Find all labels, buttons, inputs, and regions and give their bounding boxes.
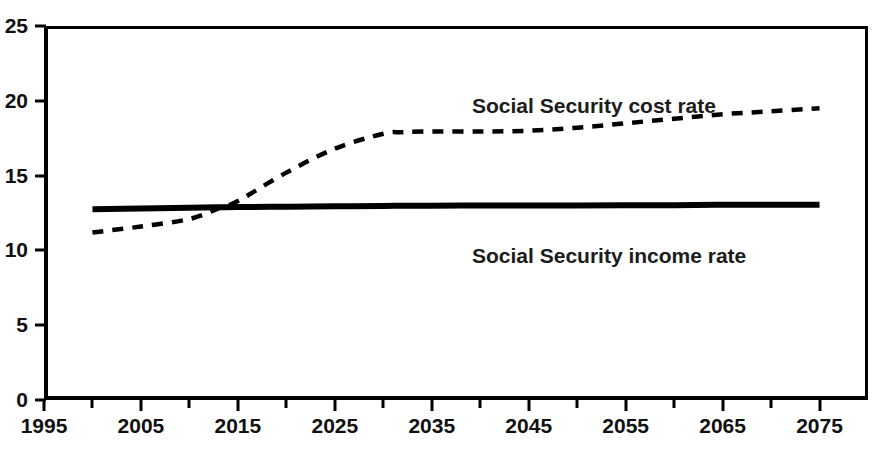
x-tick-label: 2005 bbox=[118, 414, 165, 438]
x-axis-labels: 199520052015202520352045205520652075 bbox=[44, 414, 868, 444]
y-tick-label: 25 bbox=[0, 14, 28, 38]
x-tick-mark bbox=[43, 400, 46, 411]
x-tick-mark-minor bbox=[576, 400, 579, 408]
x-tick-label: 1995 bbox=[21, 414, 68, 438]
y-tick-label: 15 bbox=[0, 164, 28, 188]
annotation-income-rate: Social Security income rate bbox=[472, 244, 746, 268]
y-tick-label: 0 bbox=[0, 388, 28, 412]
x-tick-mark bbox=[139, 400, 142, 411]
x-tick-label: 2045 bbox=[505, 414, 552, 438]
y-tick-mark bbox=[35, 99, 46, 102]
x-tick-mark-minor bbox=[479, 400, 482, 408]
plot-area: Social Security cost rate Social Securit… bbox=[44, 26, 868, 400]
series-line-cost-rate bbox=[92, 108, 819, 232]
y-tick-label: 10 bbox=[0, 238, 28, 262]
y-tick-mark bbox=[35, 25, 46, 28]
cropped-title bbox=[44, 0, 544, 3]
annotation-cost-rate: Social Security cost rate bbox=[472, 94, 716, 118]
x-tick-label: 2075 bbox=[796, 414, 843, 438]
y-tick-mark bbox=[35, 174, 46, 177]
x-tick-mark-minor bbox=[188, 400, 191, 408]
x-tick-label: 2015 bbox=[215, 414, 262, 438]
x-tick-mark bbox=[527, 400, 530, 411]
y-tick-label: 5 bbox=[0, 313, 28, 337]
x-tick-label: 2025 bbox=[311, 414, 358, 438]
chart-page: 0510152025 Social Security cost rate Soc… bbox=[0, 0, 881, 450]
x-tick-mark bbox=[721, 400, 724, 411]
series-line-income-rate bbox=[92, 205, 819, 210]
y-tick-mark bbox=[35, 324, 46, 327]
x-tick-mark bbox=[624, 400, 627, 411]
x-tick-mark bbox=[430, 400, 433, 411]
x-tick-label: 2035 bbox=[408, 414, 455, 438]
x-tick-mark-minor bbox=[382, 400, 385, 408]
x-tick-label: 2065 bbox=[699, 414, 746, 438]
y-tick-mark bbox=[35, 249, 46, 252]
x-tick-mark-minor bbox=[285, 400, 288, 408]
y-tick-label: 20 bbox=[0, 89, 28, 113]
x-tick-mark-minor bbox=[673, 400, 676, 408]
x-tick-mark-minor bbox=[770, 400, 773, 408]
series-layer bbox=[44, 26, 868, 400]
x-tick-mark bbox=[818, 400, 821, 411]
x-tick-mark-minor bbox=[91, 400, 94, 408]
x-tick-label: 2055 bbox=[602, 414, 649, 438]
y-axis-labels: 0510152025 bbox=[0, 26, 36, 400]
x-tick-mark bbox=[333, 400, 336, 411]
x-tick-mark bbox=[236, 400, 239, 411]
